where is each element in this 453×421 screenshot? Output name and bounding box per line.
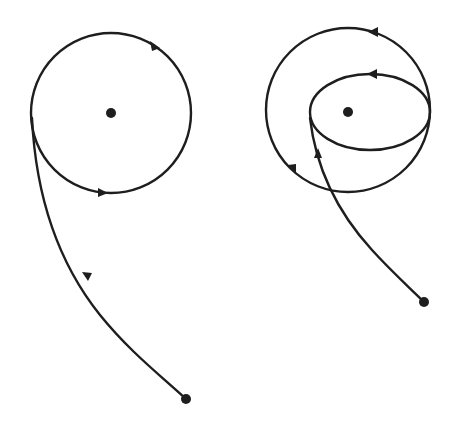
orbit-diagram	[0, 0, 453, 421]
left-start-point	[181, 394, 191, 404]
left-central-body	[106, 108, 116, 118]
right-elliptical-orbit	[310, 74, 430, 150]
right-central-body	[343, 107, 353, 117]
right-figure	[266, 27, 430, 307]
left-approach-trajectory	[32, 118, 186, 399]
arrow-icon	[368, 27, 378, 37]
arrow-icon	[82, 272, 92, 281]
left-figure	[31, 33, 191, 404]
arrow-icon	[98, 188, 108, 197]
diagram-svg	[0, 0, 453, 421]
arrow-icon	[367, 69, 377, 79]
right-trajectory	[310, 118, 424, 302]
right-start-point	[419, 297, 429, 307]
